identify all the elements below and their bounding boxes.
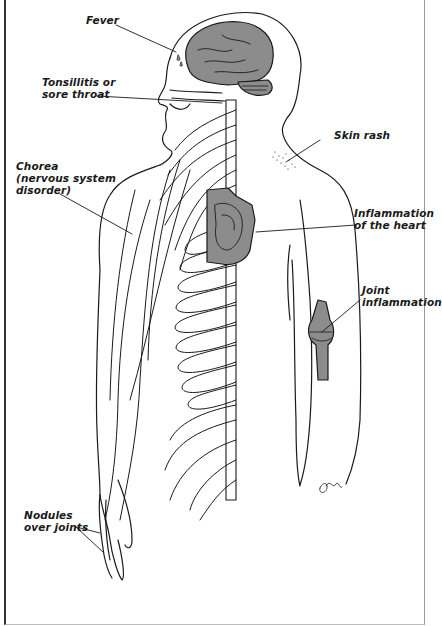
label-fever: Fever [86, 14, 119, 26]
brain-icon [186, 22, 274, 85]
label-nodules: Nodules over joints [24, 509, 88, 533]
label-joint-inflammation: Joint inflammation [362, 284, 442, 308]
joint-icon [309, 300, 334, 380]
artist-signature [320, 483, 342, 492]
label-heart-inflammation: Inflammation of the heart [354, 207, 434, 231]
leader-lines [60, 25, 360, 552]
rash-dots [272, 151, 295, 169]
heart-icon [207, 188, 255, 264]
label-tonsillitis: Tonsillitis or sore throat [42, 76, 115, 100]
label-skin-rash: Skin rash [334, 129, 390, 141]
label-chorea: Chorea (nervous system disorder) [16, 160, 116, 196]
